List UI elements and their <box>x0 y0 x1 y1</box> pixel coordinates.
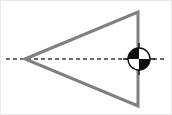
centroid-marker <box>123 43 155 75</box>
figure-canvas: Triangle with centroid marker on vertica… <box>0 0 172 115</box>
diagram-svg: Triangle with centroid marker on vertica… <box>1 1 172 115</box>
